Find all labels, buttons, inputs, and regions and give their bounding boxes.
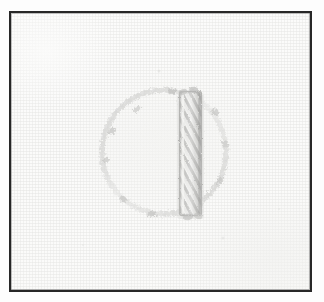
vertical-satin-bar	[177, 92, 204, 220]
stitched-circle-outline	[100, 89, 227, 216]
scan-page	[0, 0, 324, 302]
plate-border	[9, 11, 312, 292]
embroidered-motif	[11, 13, 310, 290]
